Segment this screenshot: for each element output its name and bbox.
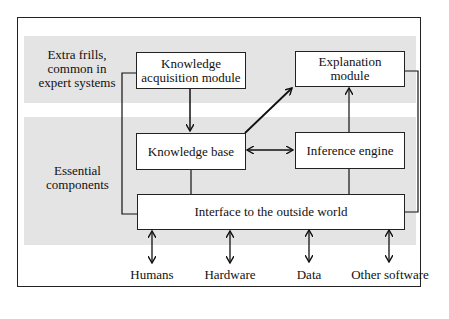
node-label: module [331, 69, 370, 83]
external-data: Data [289, 268, 329, 282]
node-label: Explanation [319, 55, 382, 69]
node-label: Interface to the outside world [194, 205, 347, 219]
extra-frills-label-line: common in [27, 62, 127, 76]
node-label: Knowledge base [148, 145, 234, 159]
external-other-software: Other software [345, 268, 435, 282]
extra-frills-label: Extra frills, common in expert systems [27, 48, 127, 90]
node-label: Inference engine [307, 144, 394, 158]
external-hardware: Hardware [200, 268, 260, 282]
node-label: acquisition module [141, 71, 240, 85]
knowledge-acquisition-module-node: Knowledge acquisition module [136, 52, 246, 89]
extra-frills-label-line: expert systems [27, 76, 127, 90]
essential-label-line: Essential [35, 164, 120, 178]
knowledge-base-node: Knowledge base [136, 133, 246, 170]
inference-engine-node: Inference engine [295, 132, 405, 169]
explanation-module-node: Explanation module [295, 51, 405, 87]
extra-frills-label-line: Extra frills, [27, 48, 127, 62]
node-label: Knowledge [161, 57, 221, 71]
external-humans: Humans [122, 268, 182, 282]
interface-outside-world-node: Interface to the outside world [137, 194, 405, 230]
essential-components-label: Essential components [35, 164, 120, 192]
essential-label-line: components [35, 178, 120, 192]
